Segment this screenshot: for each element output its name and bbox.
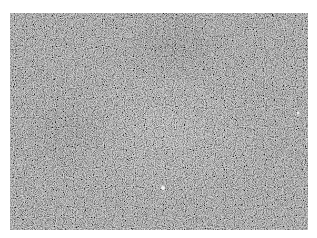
- noise-texture: [10, 13, 308, 230]
- texture-image: [10, 13, 308, 230]
